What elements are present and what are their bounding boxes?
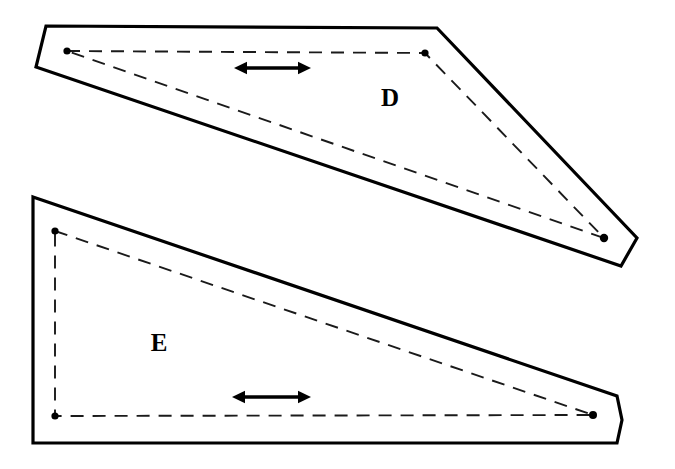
shape-e-vertex-dot-top-left [51,227,58,234]
shape-e-vertex-dot-bottom-left [51,412,58,419]
shape-d-vertex-dot-apex [600,234,608,242]
diagram-canvas: D E [0,0,675,469]
shape-d-vertex-dot-top-right [421,49,428,56]
shape-d-label: D [381,84,399,111]
shape-e-label: E [151,329,168,356]
wedge-shapes-figure: D E [0,0,675,469]
shape-e-vertex-dot-right [589,411,597,419]
shape-d-vertex-dot-top-left [63,47,70,54]
